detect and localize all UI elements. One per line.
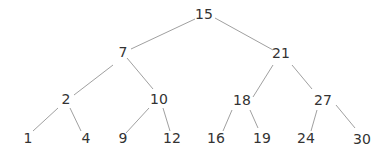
- leaf-node-30: 30: [353, 131, 371, 147]
- leaf-node-12: 12: [163, 130, 181, 146]
- node-21: 21: [272, 45, 290, 61]
- edge-10-12: [163, 108, 170, 131]
- tree-edges: [33, 18, 355, 133]
- edge-7-2: [74, 65, 113, 95]
- leaf-node-24: 24: [297, 130, 315, 146]
- node-18: 18: [233, 92, 251, 108]
- edge-7-10: [127, 58, 153, 89]
- edge-21-27: [292, 65, 312, 89]
- edge-18-19: [250, 110, 258, 128]
- leaf-node-1: 1: [24, 130, 33, 146]
- node-10: 10: [150, 91, 168, 107]
- edge-27-24: [311, 110, 317, 131]
- leaf-node-9: 9: [119, 130, 128, 146]
- edge-2-4: [70, 108, 81, 131]
- node-2: 2: [62, 91, 71, 107]
- edge-15-21: [215, 18, 273, 50]
- edge-15-7: [131, 19, 195, 49]
- edge-27-30: [336, 105, 355, 128]
- tree-nodes: 15 7 21 2 10 18 27 1 4 9 12 16 19 24 30: [24, 6, 371, 147]
- leaf-node-19: 19: [253, 130, 271, 146]
- binary-search-tree-diagram: 15 7 21 2 10 18 27 1 4 9 12 16 19 24 30: [0, 0, 387, 152]
- node-27: 27: [314, 92, 332, 108]
- node-7: 7: [119, 44, 128, 60]
- edge-10-9: [126, 108, 149, 133]
- edge-2-1: [33, 108, 58, 131]
- node-root-15: 15: [195, 6, 213, 22]
- edge-18-16: [223, 110, 232, 131]
- leaf-node-16: 16: [207, 130, 225, 146]
- leaf-node-4: 4: [82, 130, 91, 146]
- edge-21-18: [253, 65, 273, 97]
